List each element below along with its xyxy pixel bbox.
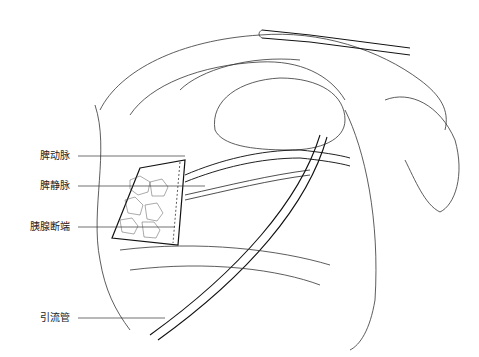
- label-drainage-tube: 引流管: [40, 312, 70, 324]
- surgical-illustration: 脾动脉 脾静脉 胰腺断端 引流管: [0, 0, 479, 357]
- label-pancreatic-stump: 胰腺断端: [30, 221, 70, 233]
- label-splenic-artery: 脾动脉: [40, 150, 70, 162]
- anatomy-drawing: [0, 0, 479, 357]
- label-splenic-vein: 脾静脉: [40, 180, 70, 192]
